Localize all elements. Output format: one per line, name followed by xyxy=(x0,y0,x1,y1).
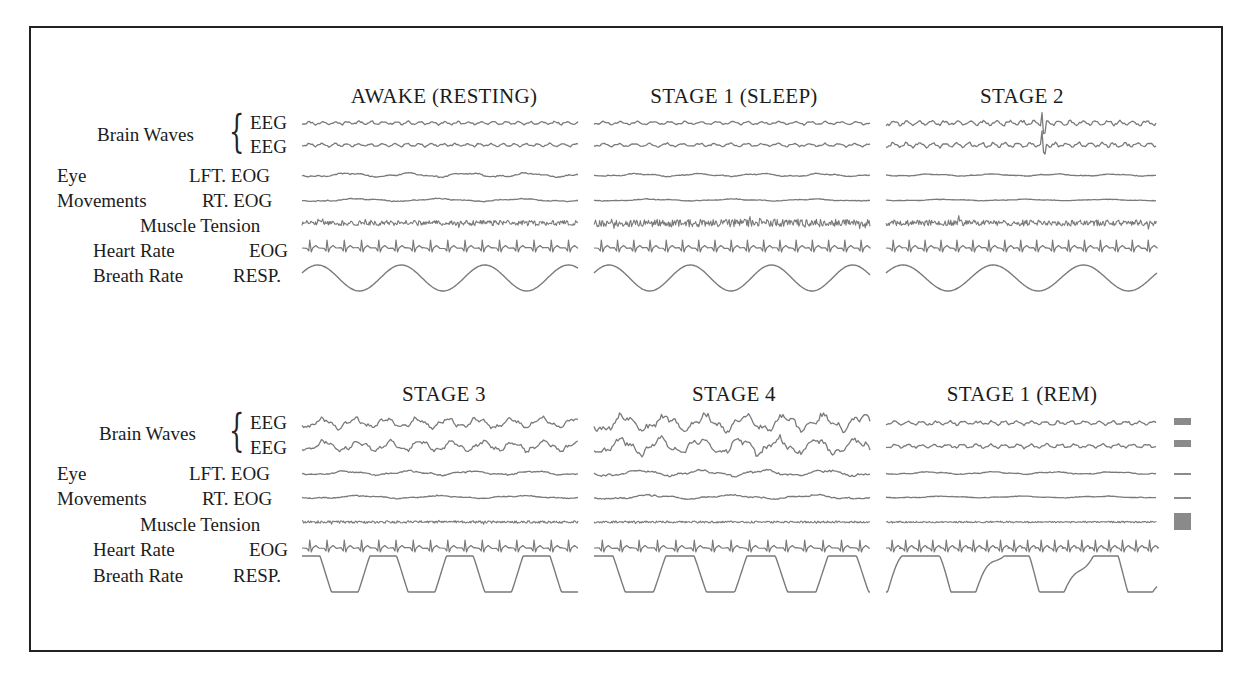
lft-eog-trace-stage1 xyxy=(594,173,870,177)
lft-eog-trace-awake xyxy=(302,173,578,178)
rt-eog-cal-mark xyxy=(1174,497,1191,499)
heart-trace-stage3 xyxy=(302,540,578,552)
heart-trace-rem xyxy=(886,540,1159,552)
resp-trace-stage1 xyxy=(594,265,870,291)
eeg-trace-1-stage1 xyxy=(594,121,870,125)
muscle-trace-stage1 xyxy=(594,217,870,229)
eeg-trace-1-stage4 xyxy=(594,413,870,433)
eeg-trace-1-stage2 xyxy=(886,113,1156,134)
heart-trace-awake xyxy=(302,240,578,252)
eeg-trace-2-stage4 xyxy=(594,435,870,457)
resp-trace-stage2 xyxy=(886,265,1157,291)
resp-trace-awake xyxy=(302,265,578,291)
resp-trace-stage4 xyxy=(594,556,870,592)
lft-eog-trace-stage2 xyxy=(886,174,1156,177)
heart-trace-stage2 xyxy=(886,240,1157,252)
rt-eog-trace-rem xyxy=(886,496,1156,498)
lft-eog-trace-stage3 xyxy=(302,470,578,476)
muscle-cal-mark xyxy=(1174,513,1191,530)
rt-eog-trace-stage1 xyxy=(594,199,870,201)
heart-trace-stage4 xyxy=(594,540,870,552)
eeg-trace-1-rem xyxy=(886,421,1156,426)
eeg-trace-2-stage3 xyxy=(302,439,578,452)
eeg-trace-2-rem xyxy=(886,443,1156,449)
lft-eog-trace-rem xyxy=(886,472,1156,475)
eeg-trace-1-stage3 xyxy=(302,416,578,430)
polygraph-traces xyxy=(0,0,1251,678)
rt-eog-trace-stage4 xyxy=(594,494,870,499)
eeg-trace-2-awake xyxy=(302,143,578,147)
eeg-trace-2-stage1 xyxy=(594,143,870,148)
muscle-trace-stage4 xyxy=(594,521,870,524)
lft-eog-cal-mark xyxy=(1174,473,1191,475)
heart-trace-stage1 xyxy=(594,240,870,252)
resp-trace-rem xyxy=(886,556,1157,592)
rt-eog-trace-stage3 xyxy=(302,495,578,499)
eeg1-cal-mark xyxy=(1174,418,1191,425)
muscle-trace-rem xyxy=(886,521,1156,523)
rt-eog-trace-awake xyxy=(302,198,578,202)
eeg-trace-2-stage2 xyxy=(886,131,1156,154)
rt-eog-trace-stage2 xyxy=(886,199,1156,201)
muscle-trace-stage3 xyxy=(302,520,578,524)
eeg2-cal-mark xyxy=(1174,440,1191,447)
lft-eog-trace-stage4 xyxy=(594,469,870,477)
muscle-trace-stage2 xyxy=(886,216,1156,230)
eeg-trace-1-awake xyxy=(302,121,578,125)
muscle-trace-awake xyxy=(302,219,578,228)
resp-trace-stage3 xyxy=(302,556,578,592)
